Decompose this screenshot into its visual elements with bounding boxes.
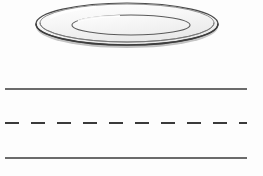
illustration-canvas [0,0,263,176]
scene-svg [0,0,263,176]
ceramic-plate [36,3,218,48]
